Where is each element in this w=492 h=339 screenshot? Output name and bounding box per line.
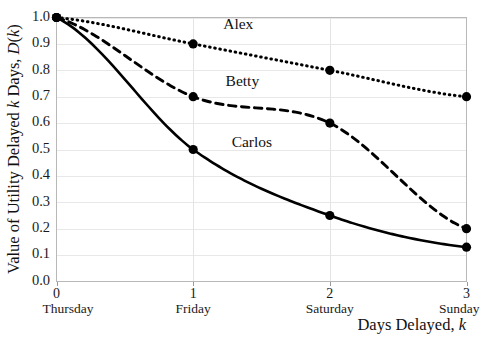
data-point-carlos-k0 — [52, 13, 61, 22]
x-tick-number: 1 — [190, 286, 197, 301]
y-tick-label: 1.0 — [32, 8, 50, 24]
data-point-alex-k2 — [325, 66, 334, 75]
x-tick-weekday: Thursday — [43, 301, 94, 316]
y-axis-title-k1: k — [4, 100, 23, 108]
data-point-carlos-k2 — [325, 211, 334, 220]
y-axis-title: Value of Utility Delayed k Days, D(k) — [4, 24, 23, 274]
series-lines — [57, 18, 467, 248]
y-tick-label: 0.0 — [32, 272, 50, 288]
y-axis-title-k2: k — [4, 29, 23, 37]
series-inline-labels: AlexBettyCarlos — [223, 15, 272, 150]
series-label-carlos: Carlos — [232, 133, 272, 150]
y-tick-label: 0.5 — [32, 140, 50, 156]
y-tick-label: 0.9 — [32, 34, 50, 50]
chart-canvas: 0.00.10.20.30.40.50.60.70.80.91.0 0Thurs… — [0, 0, 492, 339]
y-axis-title-D: D — [4, 42, 23, 55]
data-point-betty-k1 — [189, 92, 198, 101]
x-tick-weekday: Friday — [176, 301, 211, 316]
y-tick-labels: 0.00.10.20.30.40.50.60.70.80.91.0 — [32, 8, 51, 288]
y-tick-label: 0.4 — [32, 166, 51, 182]
data-point-betty-k3 — [462, 224, 471, 233]
y-tick-label: 0.1 — [32, 245, 50, 261]
x-tick-number: 2 — [326, 286, 333, 301]
x-tick-number: 3 — [463, 286, 470, 301]
data-point-carlos-k1 — [189, 145, 198, 154]
y-tick-label: 0.8 — [32, 61, 50, 77]
series-label-alex: Alex — [223, 15, 253, 32]
x-tick-labels: 0Thursday1Friday2Saturday3Sunday — [43, 286, 480, 316]
x-tick-number: 0 — [53, 286, 60, 301]
x-axis-title: Days Delayed, k — [357, 315, 466, 334]
discounting-chart: 0.00.10.20.30.40.50.60.70.80.91.0 0Thurs… — [0, 0, 492, 339]
data-point-carlos-k3 — [462, 243, 471, 252]
series-label-betty: Betty — [226, 72, 260, 89]
x-tick-weekday: Sunday — [439, 301, 480, 316]
x-tickmarks — [58, 282, 468, 286]
y-tick-label: 0.3 — [32, 193, 50, 209]
y-tick-label: 0.6 — [32, 113, 50, 129]
x-axis-title-variable: k — [459, 315, 467, 334]
data-point-alex-k1 — [189, 39, 198, 48]
y-tick-label: 0.2 — [32, 219, 50, 235]
data-point-alex-k3 — [462, 92, 471, 101]
y-tick-label: 0.7 — [32, 87, 50, 103]
x-tick-weekday: Saturday — [306, 301, 354, 316]
data-point-betty-k2 — [325, 119, 334, 128]
series-line-alex — [57, 18, 467, 97]
